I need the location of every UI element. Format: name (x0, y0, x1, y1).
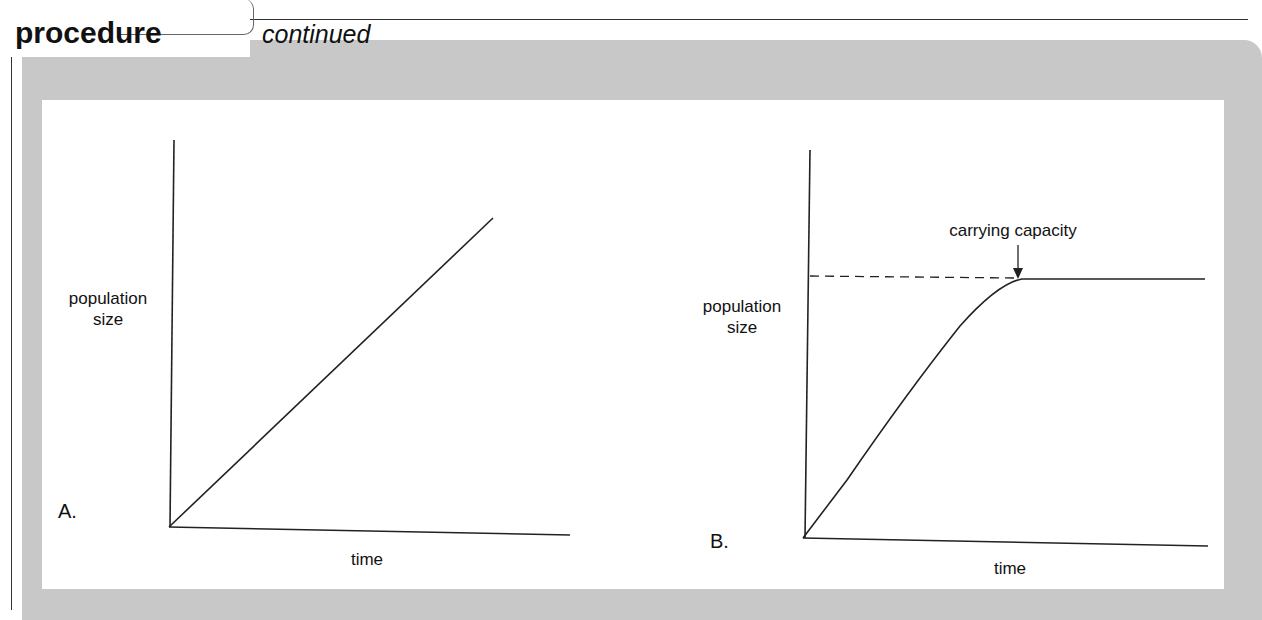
chart-a-ylabel-line1: population (48, 288, 168, 309)
chart-a-ylabel: population size (48, 288, 168, 330)
chart-b-y-axis (805, 150, 810, 538)
chart-a (169, 140, 570, 535)
chart-b-ylabel-line1: population (682, 296, 802, 317)
chart-a-panel-label: A. (58, 500, 77, 523)
carrying-capacity-dashed-line (810, 276, 1015, 278)
chart-b-panel-label: B. (710, 530, 729, 553)
chart-a-x-axis (169, 527, 570, 535)
logistic-growth-curve (803, 279, 1205, 538)
chart-b-x-axis (803, 538, 1208, 546)
carrying-capacity-annotation: carrying capacity (918, 220, 1108, 241)
chart-b (803, 150, 1208, 546)
chart-b-ylabel: population size (682, 296, 802, 338)
chart-a-ylabel-line2: size (48, 309, 168, 330)
chart-b-ylabel-line2: size (682, 317, 802, 338)
chart-a-growth-line (169, 218, 493, 527)
chart-a-xlabel: time (337, 549, 397, 570)
chart-a-y-axis (170, 140, 174, 527)
chart-b-xlabel: time (980, 558, 1040, 579)
arrow-head-icon (1013, 268, 1023, 279)
